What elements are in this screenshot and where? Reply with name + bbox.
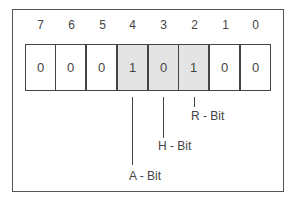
a-bit-label: A - Bit xyxy=(129,169,161,183)
bit-index-5: 5 xyxy=(87,18,118,32)
bit-index-6: 6 xyxy=(56,18,87,32)
bit-cell-2: 1 xyxy=(178,44,209,91)
bit-index-3: 3 xyxy=(148,18,179,32)
bit-cell-4: 1 xyxy=(117,44,148,91)
bit-index-0: 0 xyxy=(240,18,271,32)
r-bit-pointer-line xyxy=(194,97,195,107)
r-bit-label: R - Bit xyxy=(191,109,224,123)
bit-cell-0: 0 xyxy=(240,44,271,91)
h-bit-pointer-line xyxy=(163,97,164,138)
bit-cell-7: 0 xyxy=(25,44,56,91)
bit-cell-1: 0 xyxy=(209,44,240,91)
bit-index-2: 2 xyxy=(179,18,210,32)
bit-cell-5: 0 xyxy=(86,44,117,91)
bit-index-1: 1 xyxy=(210,18,241,32)
bit-index-4: 4 xyxy=(117,18,148,32)
bit-index-7: 7 xyxy=(25,18,56,32)
a-bit-pointer-line xyxy=(132,97,133,165)
bit-cell-3: 0 xyxy=(148,44,179,91)
h-bit-label: H - Bit xyxy=(158,139,191,153)
bit-cell-6: 0 xyxy=(55,44,86,91)
diagram-frame xyxy=(12,9,284,192)
